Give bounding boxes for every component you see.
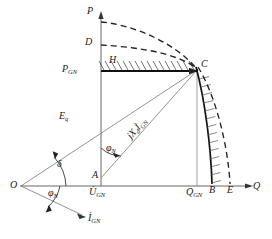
stator-limit-arc-group <box>196 67 221 184</box>
delta-angle-label: δ <box>57 159 62 169</box>
i-gn-label: İGN <box>88 213 100 223</box>
u-gn-label: U̇GN <box>89 187 105 197</box>
phi-n-lower-label: φN <box>48 188 58 198</box>
capability-diagram: P Q D H C O A B E PGN QGN U̇GN İGN Eq j… <box>0 0 272 239</box>
phi-n-lower-arc-arrowhead <box>46 205 52 213</box>
point-a-label: A <box>92 170 98 180</box>
point-c-label: C <box>201 59 208 69</box>
point-o-label: O <box>10 180 17 190</box>
q-axis-arrowhead <box>245 183 253 188</box>
point-h-label: H <box>109 55 116 65</box>
diagram-canvas <box>0 0 272 239</box>
p-axis-label: P <box>87 6 93 16</box>
q-axis-label: Q <box>253 181 260 191</box>
phi-n-lower-subscript: N <box>54 192 58 199</box>
point-e-label: E <box>227 185 233 195</box>
angle-arcs <box>48 148 121 207</box>
q-gn-subscript: GN <box>193 191 202 198</box>
eq-subscript: q <box>65 115 68 122</box>
axes-group <box>20 11 253 189</box>
p-axis-arrowhead <box>98 11 103 19</box>
phi-n-upper-base: φ <box>106 142 112 153</box>
point-b-label: B <box>209 185 215 195</box>
phi-n-upper-subscript: N <box>112 147 116 154</box>
p-gn-subscript: GN <box>68 68 77 75</box>
i-gn-subscript: GN <box>91 217 100 224</box>
point-d-label: D <box>85 37 92 47</box>
rotor-limit-arc <box>198 67 230 184</box>
point-c-marker <box>196 69 198 71</box>
phi-n-upper-label: φN <box>106 143 116 153</box>
p-gn-label: PGN <box>62 64 77 74</box>
q-gn-label: QGN <box>186 187 202 197</box>
u-gn-subscript: GN <box>96 191 105 198</box>
phi-n-lower-base: φ <box>48 187 54 198</box>
eq-label: Eq <box>59 111 68 121</box>
